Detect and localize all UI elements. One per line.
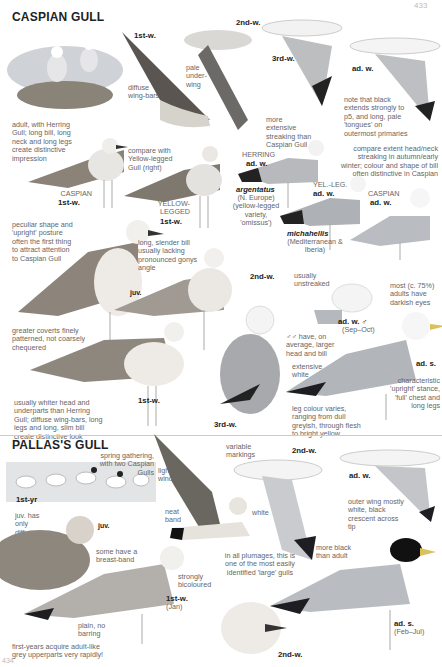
label-pallas-adw-flying: ad. w. [349, 471, 370, 480]
label-pallas-2ndw: 2nd-w. [278, 650, 302, 659]
note-plain-no-barring: plain, no barring [78, 622, 108, 639]
note-spring-gathering: spring gathering, with two Caspian Gulls [88, 452, 154, 477]
label-caspian-2ndw-flying: 2nd-w. [236, 18, 260, 27]
label-pallas-2ndw-flying: 2nd-w. [292, 446, 316, 455]
note-upright-stance: characteristic 'upright' stance, 'full' … [388, 377, 440, 411]
note-outer-wing: outer wing mostly white, black crescent … [348, 498, 406, 532]
caspian-2ndw-flying-bird-illustration [178, 20, 258, 130]
note-leg-colour: leg colour varies, ranging from dull gre… [292, 405, 366, 439]
label-pallas-1styr: 1st-yr [16, 495, 37, 504]
note-michahellis: (Mediterranean & Iberia) [282, 238, 348, 255]
label-caspian-ads: ad. s. [416, 359, 436, 368]
label-yellow-legged-species: YELLOW-LEGGED [150, 200, 190, 217]
label-caspian-age-1: 1st-w. [58, 198, 80, 207]
page-number-top: 433 [414, 1, 427, 10]
note-black-p5: note that black extends strongly to p5, … [344, 96, 414, 138]
label-yel-leg-age: ad. w. [313, 189, 334, 198]
label-herring-age: ad. w. [246, 159, 267, 168]
label-caspian-adw-flying: ad. w. [352, 64, 373, 73]
label-pallas-ads-sub: (Feb–Jul) [394, 628, 424, 636]
note-argentatus: (N. Europe) (yellow-legged variety, 'omi… [228, 194, 284, 228]
label-caspian-1stw-bottom: 1st-w. [138, 396, 160, 405]
label-caspian-3rdw: 3rd-w. [214, 420, 237, 429]
label-caspian-adw-age: ad. w. [370, 198, 391, 207]
caspian-3rdw-standing-bird-illustration [210, 300, 290, 430]
caspian-3rdw-flying-bird-illustration [262, 16, 352, 116]
label-yellow-legged-age: 1st-w. [160, 217, 182, 226]
note-strongly-bicoloured: strongly bicoloured [178, 573, 218, 590]
caspian-rock-scene-illustration [5, 30, 125, 112]
label-pallas-1stw-sub: (Jan) [166, 603, 182, 611]
note-dark-eyes: most (c. 75%) adults have darkish eyes [390, 282, 440, 307]
note-neat-band: neat band [165, 508, 187, 525]
label-caspian-2ndw: 2nd-w. [250, 272, 274, 281]
label-caspian-1stw-flying: 1st-w. [134, 31, 156, 40]
section-title-caspian: CASPIAN GULL [12, 10, 104, 24]
section-title-pallas: PALLAS'S GULL [12, 438, 109, 452]
label-caspian-3rdw-flying: 3rd-w. [272, 54, 295, 63]
note-first-years: first-years acquire adult-like grey uppe… [12, 643, 108, 660]
